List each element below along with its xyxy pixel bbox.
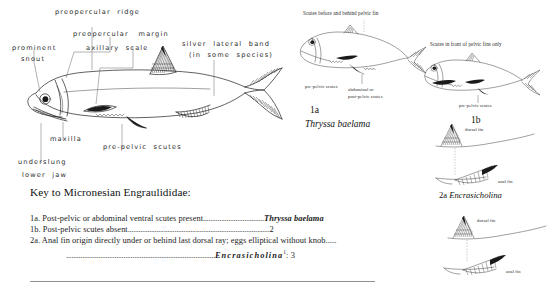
key-title: Key to Micronesian Engraulididae: — [30, 186, 430, 198]
label-preopercular-margin: preopercular margin — [73, 31, 169, 38]
label-1b-pre-pelvic-scutes: pre-pelvic scutes — [459, 104, 492, 109]
caption-1b-top: Scutes in front of pelvic fins only — [430, 42, 502, 47]
label-maxilla: maxilla — [50, 136, 82, 143]
figure-number-1a: 1a — [310, 106, 319, 116]
figure-number-2a-value: 2a — [439, 190, 447, 200]
key-line-1a: 1a. Post-pelvic or abdominal ventral scu… — [30, 213, 430, 224]
bottom-rule — [30, 281, 375, 282]
key-line-1b-result: 2 — [269, 225, 273, 234]
label-1a-pre-pelvic-scutes: pre-pelvic scutes — [305, 85, 338, 90]
key-line-1a-result: Thryssa baelama — [264, 214, 324, 223]
label-preopercular-ridge: preopercular ridge — [55, 9, 140, 16]
figure-number-1b: 1b — [471, 116, 481, 126]
key-line-1a-dots: .................................. — [203, 214, 264, 223]
label-prominent-snout-line2: snout — [21, 56, 45, 63]
key-line-2a-cont: ........................................… — [30, 247, 430, 261]
species-name-1a: Thryssa baelama — [305, 120, 370, 130]
label-2b-anal-fin: anal fin — [506, 270, 521, 275]
key-line-1b-lead: 1b. Post-pelvic scutes absent — [30, 225, 128, 234]
label-underslung-line2: lower jaw — [22, 172, 67, 179]
figure-page: preopercular ridge preopercular margin p… — [0, 0, 553, 288]
panel-1a-drawing — [300, 20, 426, 84]
panel-2b-dorsal-detail — [444, 216, 546, 275]
key-line-1b-dots: ........................................… — [128, 225, 270, 234]
label-2a-anal-fin: anal fin — [498, 180, 513, 185]
key-line-2a-cont-result: Encrasicholina — [215, 250, 283, 259]
key-line-2a-dots: ...... — [325, 236, 336, 245]
label-1a-abdominal-line2: post-pelvic scutes — [348, 95, 383, 100]
label-axillary-scale: axillary scale — [86, 45, 149, 52]
key-line-2a-lead: 2a. Anal fin origin directly under or be… — [30, 236, 325, 245]
label-prominent-snout-line1: prominent — [12, 45, 56, 52]
label-pre-pelvic-scutes: pre-pelvic scutes — [103, 144, 182, 151]
genus-name-2a: Encrasicholina — [449, 190, 502, 200]
label-1a-abdominal-line1: abdominal or — [348, 88, 374, 93]
label-2b-dorsal-fin: dorsal fin — [477, 219, 495, 224]
label-silver-lateral-band-line2: (in some species) — [189, 52, 273, 59]
key-line-1a-lead: 1a. Post-pelvic or abdominal ventral scu… — [30, 214, 203, 223]
key-line-2a-cont-dots: ........................................… — [66, 250, 215, 259]
figure-number-2a: 2a Encrasicholina — [439, 191, 502, 200]
panel-1b-drawing — [425, 53, 540, 103]
label-underslung-line1: underslung — [18, 159, 67, 166]
key-line-1b: 1b. Post-pelvic scutes absent...........… — [30, 224, 430, 235]
caption-1a-top: Scutes before and behind pelvic fin — [303, 11, 379, 16]
label-silver-lateral-band-line1: silver lateral band — [182, 41, 270, 48]
key-block: Key to Micronesian Engraulididae: 1a. Po… — [30, 186, 430, 261]
label-2a-dorsal-fin: dorsal fin — [465, 128, 483, 133]
panel-2a-dorsal-detail — [436, 124, 534, 185]
key-line-2a-cont-suffix: : 3 — [286, 250, 295, 259]
key-line-2a: 2a. Anal fin origin directly under or be… — [30, 235, 430, 246]
